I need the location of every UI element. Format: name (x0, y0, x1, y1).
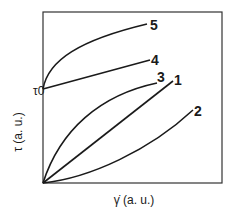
curve-5 (43, 24, 147, 89)
curve-1 (43, 81, 173, 183)
curve-2 (43, 110, 193, 183)
curve-label-2: 2 (194, 103, 202, 119)
x-axis-label: γ̇ (a. u.) (114, 193, 155, 207)
plot-frame (43, 12, 222, 183)
y-axis-label: τ (a. u.) (11, 112, 25, 151)
curve-label-4: 4 (151, 52, 159, 68)
curve-label-1: 1 (174, 72, 182, 88)
curve-label-3: 3 (157, 69, 165, 85)
rheology-chart: 5 4 3 1 2 τ0 τ (a. u.) γ̇ (a. u.) (0, 0, 235, 218)
curve-4 (43, 60, 150, 89)
curve-label-5: 5 (150, 17, 158, 33)
tau0-label: τ0 (33, 84, 45, 98)
